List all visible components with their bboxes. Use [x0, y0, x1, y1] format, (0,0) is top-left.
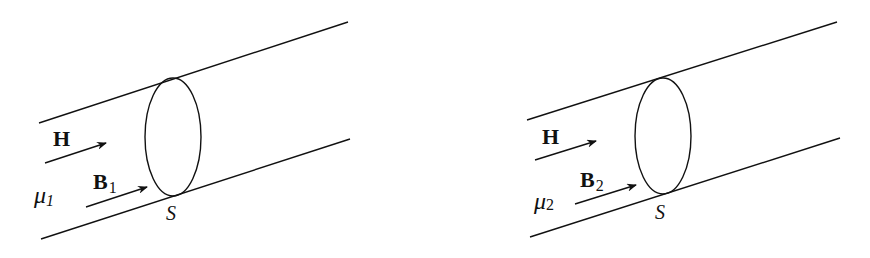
svg-text:μ2: μ2 — [533, 188, 554, 214]
svg-text:B2: B2 — [580, 167, 604, 194]
cross-section-ellipse — [145, 78, 201, 196]
permeability-label: μ — [533, 188, 546, 214]
svg-text:μ1: μ1 — [33, 182, 54, 209]
b-field-subscript: 1 — [109, 179, 117, 196]
svg-text:B1: B1 — [93, 169, 117, 196]
b-field-subscript: 2 — [596, 177, 604, 194]
cylinder-bottom-edge — [41, 139, 350, 239]
cylinder-figure-1: H B1 μ1 S — [33, 22, 350, 239]
h-field-label: H — [53, 126, 70, 151]
permeability-subscript: 1 — [46, 192, 54, 209]
permeability-label: μ — [33, 182, 46, 208]
surface-label: S — [166, 202, 176, 224]
cross-section-ellipse — [635, 78, 691, 194]
h-field-label: H — [542, 124, 559, 149]
b-field-label: B — [580, 167, 595, 192]
cylinder-top-edge — [527, 22, 837, 120]
cylinder-figure-2: H B2 μ2 S — [527, 22, 840, 237]
diagram-canvas: H B1 μ1 S H B2 μ2 S — [0, 0, 870, 258]
surface-label: S — [655, 201, 665, 223]
permeability-subscript: 2 — [546, 196, 554, 213]
b-field-label: B — [93, 169, 108, 194]
cylinder-top-edge — [39, 22, 348, 123]
cylinder-bottom-edge — [530, 138, 840, 237]
